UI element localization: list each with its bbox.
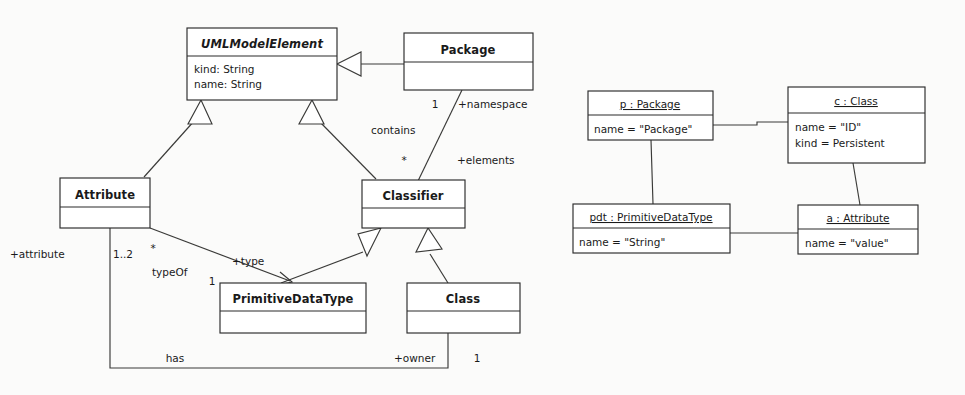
class-title-classifier: Classifier [382,189,443,203]
edge-label-has: has [166,352,185,364]
edge-label-attribute-role: +attribute [10,248,65,260]
class-box-class[interactable]: Class [407,283,520,333]
class-title-class: Class [446,292,480,306]
edge-label-owner-multiplicity: 1 [474,352,481,364]
edge-label-contains: contains [371,124,415,136]
class-title-attribute: Attribute [75,188,135,202]
uml-diagram-svg: UMLModelElement kind: String name: Strin… [0,0,965,395]
object-slot-p-package-name: name = "Package" [594,123,692,135]
class-box-primitivedatatype[interactable]: PrimitiveDataType [220,283,366,333]
edge-label-elements-multiplicity: * [401,154,406,166]
object-title-pdt-primitivedatatype: pdt : PrimitiveDataType [589,211,712,223]
object-title-c-class: c : Class [834,95,878,107]
object-box-a-attribute[interactable]: a : Attribute name = "value" [798,205,918,254]
object-box-pdt-primitivedatatype[interactable]: pdt : PrimitiveDataType name = "String" [573,204,730,253]
class-box-package[interactable]: Package [404,33,533,90]
class-diagram-group: UMLModelElement kind: String name: Strin… [10,28,533,368]
edge-label-type-multiplicity: 1 [209,275,216,287]
class-box-classifier[interactable]: Classifier [362,180,465,228]
association-package-contains-classifier [418,90,462,181]
object-box-c-class[interactable]: c : Class name = "ID" kind = Persistent [788,87,925,163]
class-attribute-name: name: String [194,78,262,90]
object-title-p-package: p : Package [620,98,680,110]
link-c-class-to-a-attribute [853,163,860,205]
edge-label-typeof: typeOf [152,266,188,278]
edge-label-elements-role: +elements [457,154,515,166]
object-box-p-package[interactable]: p : Package name = "Package" [588,91,713,140]
edge-label-namespace-role: +namespace [458,98,527,110]
class-box-umlmodelelement[interactable]: UMLModelElement kind: String name: Strin… [187,28,337,100]
object-slot-pdt-name: name = "String" [579,236,665,248]
class-title-umlmodelelement: UMLModelElement [201,37,323,51]
edge-label-type-role: +type [232,255,264,267]
edge-label-namespace-multiplicity: 1 [432,98,439,110]
edge-label-attribute-multiplicity: 1..2 [113,248,133,260]
object-diagram-group: p : Package name = "Package" c : Class n… [573,87,925,254]
link-p-package-to-c-class [713,122,788,125]
object-slot-a-attribute-name: name = "value" [805,237,889,249]
edge-label-owner-role: +owner [394,352,436,364]
generalization-primitivedatatype-to-classifier [281,228,381,283]
generalization-class-to-classifier [416,228,448,283]
object-slot-c-class-kind: kind = Persistent [795,137,885,149]
object-title-a-attribute: a : Attribute [826,212,889,224]
link-p-package-to-pdt-primitivedatatype [651,140,653,204]
class-box-attribute[interactable]: Attribute [60,178,150,228]
object-slot-c-class-name: name = "ID" [795,121,861,133]
edge-label-typeof-star-multiplicity: * [150,242,155,254]
generalization-classifier-to-umlmodelelement [299,100,376,179]
class-title-package: Package [441,43,496,57]
uml-diagram-canvas: UMLModelElement kind: String name: Strin… [0,0,965,395]
class-attribute-kind: kind: String [194,63,255,75]
generalization-package-to-umlmodelelement [337,52,404,76]
class-title-primitivedatatype: PrimitiveDataType [233,292,354,306]
generalization-attribute-to-umlmodelelement [144,100,212,177]
